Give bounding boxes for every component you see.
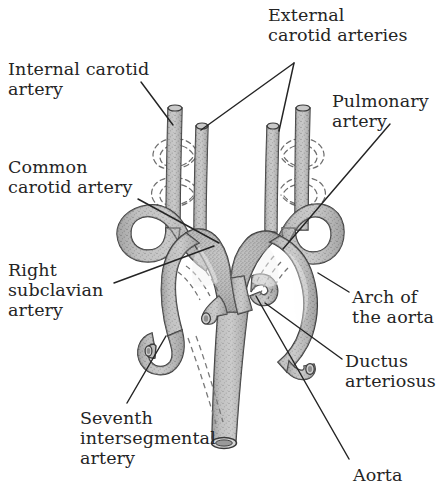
leader-seventh-intersegmental: [127, 336, 166, 403]
label-external-carotid-arteries: External carotid arteries: [268, 6, 408, 46]
leader-pulmonary-artery: [283, 124, 390, 249]
leader-external-carotid-left: [279, 63, 294, 131]
label-right-subclavian-artery: Right subclavian artery: [8, 261, 103, 321]
leader-common-carotid: [138, 199, 219, 243]
label-pulmonary-artery: Pulmonary artery: [332, 92, 429, 132]
label-internal-carotid-artery: Internal carotid artery: [8, 60, 149, 100]
label-seventh-intersegmental-artery: Seventh intersegmental artery: [80, 409, 216, 469]
label-aorta: Aorta: [353, 466, 403, 486]
aortic-arch-diagram: External carotid arteries Internal carot…: [0, 0, 438, 504]
label-common-carotid-artery: Common carotid artery: [8, 158, 132, 198]
leader-external-carotid-right: [201, 63, 294, 130]
leader-aorta: [256, 296, 349, 459]
leader-arch-of-aorta: [318, 273, 349, 292]
label-ductus-arteriosus: Ductus arteriosus: [345, 352, 436, 392]
label-arch-of-the-aorta: Arch of the aorta: [352, 288, 434, 328]
leader-right-subclavian: [114, 246, 214, 283]
